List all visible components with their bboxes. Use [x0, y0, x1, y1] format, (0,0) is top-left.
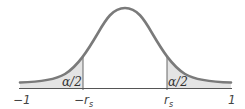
- tick-neg-rs: −rs: [74, 93, 93, 109]
- tick-neg-one: −1: [13, 93, 31, 107]
- distribution-chart: α/2 α/2 −1 −rs rs 1: [0, 0, 245, 109]
- tick-one: 1: [228, 93, 236, 107]
- right-tail-label: α/2: [168, 75, 188, 89]
- tick-rs: rs: [164, 93, 173, 109]
- bell-curve: [20, 8, 231, 83]
- left-tail-label: α/2: [62, 75, 82, 89]
